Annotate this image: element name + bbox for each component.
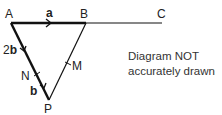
label-a: A [5,7,13,21]
vector-label-b: b [30,84,37,98]
label-p: P [44,102,52,115]
note-line-2: accurately drawn [128,64,215,79]
vector-label-2b: 2b [3,43,17,57]
label-n: N [21,69,30,83]
label-m: M [72,59,82,73]
label-b: B [80,7,88,21]
label-c: C [157,7,166,21]
note-line-1: Diagram NOT [128,49,215,64]
vector-label-a: a [46,6,53,20]
disclaimer-note: Diagram NOT accurately drawn [128,49,215,79]
